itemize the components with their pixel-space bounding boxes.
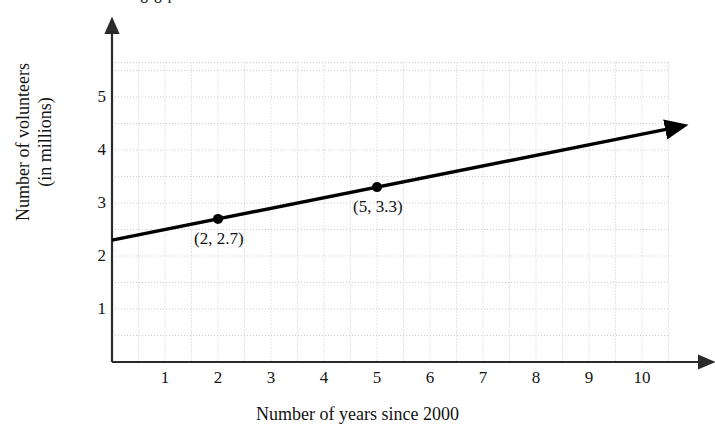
data-point-marker [213, 214, 223, 224]
x-tick-label: 7 [479, 368, 488, 388]
y-axis-title-line1: Number of volunteers [13, 63, 33, 221]
x-tick-label: 1 [161, 368, 170, 388]
data-point-marker [372, 182, 382, 192]
chart-canvas [0, 0, 715, 436]
y-tick-label: 3 [92, 193, 106, 213]
y-tick-label: 4 [92, 140, 106, 160]
chart-figure: o o r Number of volunteers (in millions)… [0, 0, 715, 436]
x-tick-label: 10 [634, 368, 651, 388]
data-point-label: (2, 2.7) [194, 229, 244, 249]
x-tick-label: 9 [585, 368, 594, 388]
x-tick-label: 6 [426, 368, 435, 388]
x-axis-title: Number of years since 2000 [0, 404, 715, 425]
trend-line-path [112, 129, 669, 240]
y-tick-label: 1 [92, 299, 106, 319]
y-axis-title-line2: (in millions) [34, 42, 56, 242]
x-tick-label: 8 [532, 368, 541, 388]
y-tick-label: 2 [92, 246, 106, 266]
x-tick-label: 5 [373, 368, 382, 388]
trend-line [112, 129, 669, 240]
x-tick-label: 3 [267, 368, 276, 388]
x-tick-label: 4 [320, 368, 329, 388]
y-tick-label: 5 [92, 87, 106, 107]
y-axis-title: Number of volunteers (in millions) [12, 42, 56, 242]
data-point-label: (5, 3.3) [353, 197, 403, 217]
x-tick-label: 2 [214, 368, 223, 388]
